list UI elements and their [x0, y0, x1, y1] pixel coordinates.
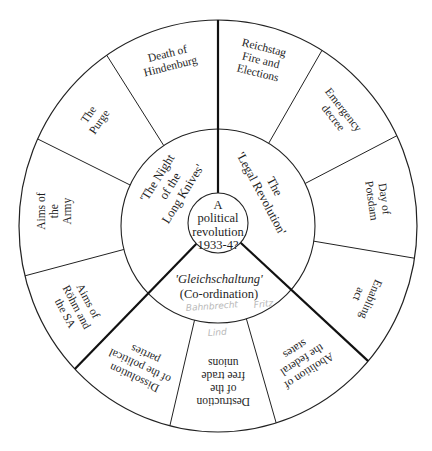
political-revolution-wheel-diagram: ReichstagFire andElectionsEmergencydecre… [0, 0, 432, 451]
inner-segment-label-gleichschaltung: 'Gleichschaltung'(Co-ordination) [175, 272, 263, 301]
handwritten-annotation: Lind [207, 327, 227, 338]
handwritten-annotation: Fritz [253, 298, 274, 310]
wheel-svg: ReichstagFire andElectionsEmergencydecre… [0, 0, 432, 451]
